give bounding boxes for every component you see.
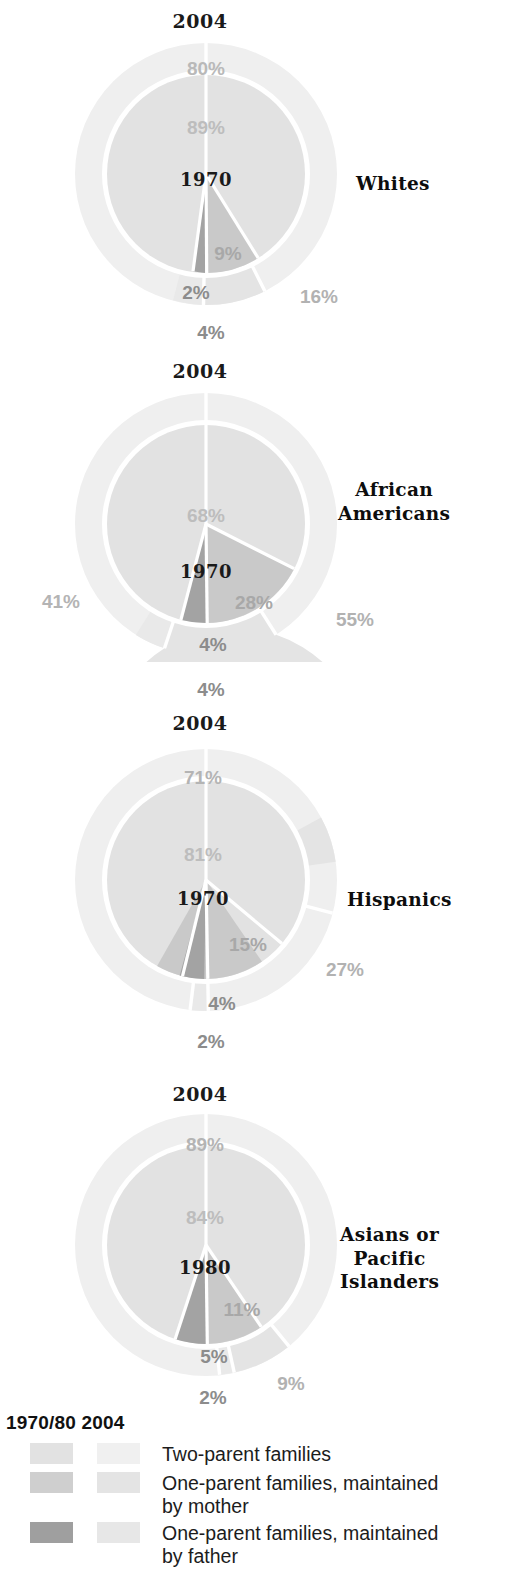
chart-block-asians-pacific-islanders: 2004 <box>0 1045 513 1390</box>
pct-inner-father: 5% <box>200 1346 227 1368</box>
pct-outer-two-parent: 80% <box>187 58 225 80</box>
legend-item[interactable]: One-parent families, maintained by mothe… <box>0 1472 513 1518</box>
pct-inner-mother: 9% <box>214 243 241 265</box>
pct-inner-two-parent: 89% <box>187 117 225 139</box>
group-label-line1: Asians or <box>340 1223 439 1247</box>
pct-outer-two-parent: 41% <box>42 591 80 613</box>
inner-year-title: 1970 <box>177 888 229 909</box>
legend: 1970/80 2004 Two-parent families One-par… <box>0 1412 513 1588</box>
pct-inner-mother: 15% <box>229 934 267 956</box>
inner-year-title: 1970 <box>180 561 232 582</box>
group-label-line2: Americans <box>338 502 450 526</box>
inner-ring-1980 <box>107 1146 305 1344</box>
legend-label: One-parent families, maintained by mothe… <box>162 1472 462 1518</box>
pct-outer-mother: 55% <box>336 609 374 631</box>
group-label-asians-pacific-islanders: Asians or Pacific Islanders <box>340 1223 439 1294</box>
outer-year-title: 2004 <box>60 360 340 382</box>
legend-swatch-1970-mother <box>30 1472 73 1493</box>
pct-outer-father: 4% <box>197 322 224 344</box>
legend-swatch-2004-mother <box>97 1472 140 1493</box>
inner-year-title: 1980 <box>179 1257 231 1278</box>
legend-label: Two-parent families <box>162 1443 331 1466</box>
legend-swatch-2004-father <box>97 1522 140 1543</box>
pct-outer-two-parent: 71% <box>184 767 222 789</box>
pct-inner-two-parent: 81% <box>184 844 222 866</box>
outer-year-title: 2004 <box>60 712 340 734</box>
pct-inner-two-parent: 68% <box>187 505 225 527</box>
group-label-line3: Islanders <box>340 1270 439 1294</box>
chart-block-african-americans: 2004 <box>0 350 513 695</box>
pct-inner-father: 4% <box>208 993 235 1015</box>
outer-year-title: 2004 <box>60 1083 340 1105</box>
pct-outer-two-parent: 89% <box>186 1134 224 1156</box>
inner-year-title: 1970 <box>180 169 232 190</box>
pct-outer-mother: 16% <box>300 286 338 308</box>
legend-swatch-1970-two-parent <box>30 1443 73 1464</box>
outer-year-title: 2004 <box>60 10 340 32</box>
group-label-line2: Pacific <box>340 1247 439 1271</box>
legend-rows: Two-parent families One-parent families,… <box>0 1443 513 1572</box>
pct-outer-father: 2% <box>199 1387 226 1409</box>
group-label-hispanics: Hispanics <box>347 888 452 912</box>
group-label-line1: African <box>338 478 450 502</box>
chart-block-whites: 2004 <box>0 0 513 345</box>
chart-block-hispanics: 2004 <box>0 700 513 1045</box>
pct-outer-mother: 9% <box>277 1373 304 1395</box>
pct-inner-mother: 28% <box>235 592 273 614</box>
group-label-african-americans: African Americans <box>338 478 450 525</box>
legend-swatch-1970-father <box>30 1522 73 1543</box>
pct-inner-father: 2% <box>182 282 209 304</box>
pct-inner-two-parent: 84% <box>186 1207 224 1229</box>
group-label-whites: Whites <box>356 172 430 196</box>
pct-inner-father: 4% <box>199 634 226 656</box>
legend-header: 1970/80 2004 <box>6 1412 125 1434</box>
legend-item[interactable]: One-parent families, maintained by fathe… <box>0 1522 513 1568</box>
pct-outer-mother: 27% <box>326 959 364 981</box>
legend-swatch-2004-two-parent <box>97 1443 140 1464</box>
legend-label: One-parent families, maintained by fathe… <box>162 1522 462 1568</box>
legend-item[interactable]: Two-parent families <box>0 1443 513 1466</box>
pct-outer-father: 4% <box>197 679 224 701</box>
pct-inner-mother: 11% <box>224 1299 261 1321</box>
